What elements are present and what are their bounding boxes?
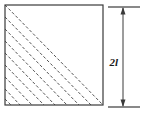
dimension-label: 2l — [108, 56, 119, 68]
technical-figure-svg: 2l — [0, 0, 144, 119]
figure-container: 2l — [0, 0, 144, 119]
